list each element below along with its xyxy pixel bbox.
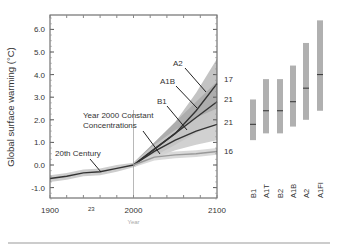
range-bar-A2 bbox=[303, 43, 309, 120]
x-axis-title: Year bbox=[127, 219, 139, 225]
label-concentrations: Concentrations bbox=[83, 121, 137, 130]
label-model-count-20th: 23 bbox=[88, 206, 95, 212]
scenario-label-B2: B2 bbox=[276, 189, 285, 198]
range-bar-B2 bbox=[277, 79, 283, 133]
scenario-label-A1B: A1B bbox=[289, 184, 298, 198]
y-tick-label: 1.0 bbox=[34, 138, 46, 147]
series-line-0 bbox=[50, 165, 134, 179]
y-tick-label: 3.0 bbox=[34, 93, 46, 102]
x-tick-label: 2000 bbox=[125, 206, 143, 215]
label-year-2000-constant: Year 2000 Constant bbox=[83, 111, 154, 120]
warming-chart: -1.00.01.02.03.04.05.06.0190020002100Yea… bbox=[0, 0, 346, 245]
model-count-label: 21 bbox=[224, 95, 233, 104]
label-20th-century: 20th Century bbox=[55, 149, 101, 158]
y-tick-label: 0.0 bbox=[34, 161, 46, 170]
model-count-label: 17 bbox=[224, 75, 233, 84]
range-bar-B1 bbox=[250, 99, 256, 140]
y-tick-label: 5.0 bbox=[34, 48, 46, 57]
label-a1b: A1B bbox=[160, 77, 175, 86]
label-b1: B1 bbox=[157, 97, 167, 106]
y-tick-label: 6.0 bbox=[34, 25, 46, 34]
scenario-label-A1FI: A1FI bbox=[316, 182, 325, 198]
scenario-label-B1: B1 bbox=[249, 189, 258, 198]
scenario-range-bars: B1A1TB2A1BA2A1FI bbox=[249, 20, 325, 198]
x-tick-label: 1900 bbox=[41, 206, 59, 215]
range-bar-A1B bbox=[290, 66, 296, 127]
model-count-label: 21 bbox=[224, 118, 233, 127]
range-bar-A1T bbox=[263, 79, 269, 133]
y-tick-label: 4.0 bbox=[34, 71, 46, 80]
scenario-label-A2: A2 bbox=[302, 189, 311, 198]
label-a2: A2 bbox=[173, 59, 183, 68]
y-tick-label: 2.0 bbox=[34, 116, 46, 125]
scenario-label-A1T: A1T bbox=[262, 184, 271, 198]
y-tick-label: -1.0 bbox=[31, 184, 45, 193]
model-count-label: 16 bbox=[224, 147, 233, 156]
x-tick-label: 2100 bbox=[208, 206, 226, 215]
y-axis-title: Global surface warming (°C) bbox=[5, 47, 16, 166]
pointer-line bbox=[185, 68, 206, 92]
range-bar-A1FI bbox=[317, 20, 323, 110]
